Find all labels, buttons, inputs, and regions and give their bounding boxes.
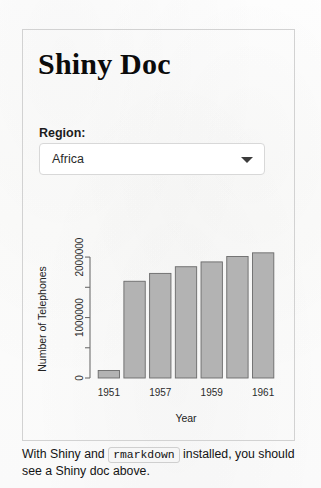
bar [201,262,222,378]
telephones-bar-chart: 0100000020000001951195719591961YearNumbe… [24,200,293,435]
x-tick-label: 1951 [98,387,121,398]
region-select[interactable]: Africa [39,143,265,175]
chart-canvas: 0100000020000001951195719591961YearNumbe… [24,200,293,435]
chevron-down-icon[interactable] [241,157,253,163]
x-tick-label: 1959 [201,387,224,398]
bar [124,281,145,378]
bar [150,273,171,378]
y-tick-label: 1000000 [74,298,85,337]
y-tick-label: 2000000 [74,237,85,276]
region-label: Region: [39,126,86,140]
y-tick-label: 0 [74,375,85,381]
page-title: Shiny Doc [38,49,171,79]
inline-code-rmarkdown: rmarkdown [108,447,180,463]
x-tick-label: 1961 [252,387,275,398]
bar [227,256,248,378]
bar [98,371,119,379]
x-axis-title: Year [175,412,197,424]
caption-before: With Shiny and [22,447,105,461]
y-axis-title: Number of Telephones [36,266,48,371]
x-tick-label: 1957 [149,387,172,398]
bar [175,267,196,378]
region-select-value: Africa [52,152,84,166]
bar [252,253,273,378]
caption-text: With Shiny and rmarkdown installed, you … [22,446,302,479]
